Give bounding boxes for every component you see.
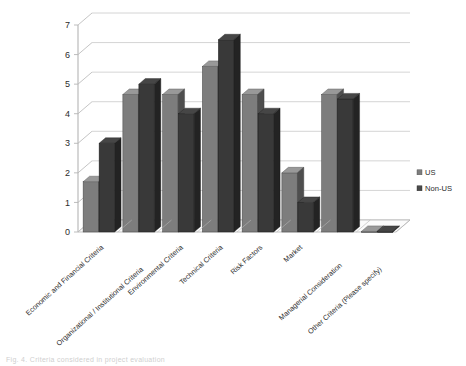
gridline-connector bbox=[78, 102, 92, 114]
bar-front bbox=[179, 114, 195, 232]
bar-front bbox=[163, 94, 179, 232]
bar-group bbox=[361, 226, 399, 233]
x-axis-label: Other Criteria (Please specify) bbox=[306, 265, 384, 336]
bar-group bbox=[322, 89, 360, 232]
bar-front bbox=[123, 94, 139, 232]
y-tick-label: 3 bbox=[65, 138, 70, 148]
bar-front bbox=[202, 66, 218, 232]
bar-group bbox=[83, 138, 121, 232]
bar-front bbox=[242, 94, 258, 232]
figure-caption: Fig. 4. Criteria considered in project e… bbox=[6, 356, 165, 363]
bar-chart: 01234567Economic and Financial CriteriaO… bbox=[0, 0, 466, 366]
gridline-connector bbox=[78, 161, 92, 173]
bar-side bbox=[313, 197, 319, 232]
bar-front bbox=[258, 114, 274, 232]
bar-front bbox=[218, 40, 234, 232]
bar-side bbox=[234, 34, 240, 232]
y-tick-label: 6 bbox=[65, 50, 70, 60]
chart-container: 01234567Economic and Financial CriteriaO… bbox=[0, 0, 466, 366]
y-axis-ticks: 01234567 bbox=[65, 20, 78, 237]
bar-front bbox=[99, 143, 115, 232]
bar-group bbox=[202, 34, 240, 232]
x-axis-label: Risk Factors bbox=[229, 243, 265, 277]
legend: USNon-US bbox=[417, 168, 452, 193]
y-tick-label: 5 bbox=[65, 79, 70, 89]
bar-side bbox=[154, 79, 160, 232]
bar-front bbox=[83, 182, 99, 232]
x-axis-label: Market bbox=[282, 243, 304, 264]
gridline-connector bbox=[78, 13, 92, 25]
y-tick-label: 4 bbox=[65, 109, 70, 119]
gridline-connector bbox=[78, 131, 92, 143]
plot-area: 01234567 bbox=[65, 13, 410, 237]
legend-label: Non-US bbox=[425, 184, 452, 193]
legend-label: US bbox=[425, 168, 436, 177]
bar-front bbox=[139, 84, 155, 232]
legend-swatch bbox=[417, 170, 422, 175]
y-tick-label: 7 bbox=[65, 20, 70, 30]
bar-side bbox=[115, 138, 121, 232]
bar-front bbox=[298, 202, 314, 232]
bar-group bbox=[123, 79, 161, 232]
y-tick-label: 1 bbox=[65, 198, 70, 208]
y-tick-label: 0 bbox=[65, 227, 70, 237]
legend-swatch bbox=[417, 186, 422, 191]
bar-group bbox=[242, 89, 280, 232]
bar-front bbox=[282, 173, 298, 232]
bar-front bbox=[338, 99, 354, 232]
bar-group bbox=[163, 89, 201, 232]
gridline-connector bbox=[78, 43, 92, 55]
y-tick-label: 2 bbox=[65, 168, 70, 178]
bar-side bbox=[194, 108, 200, 232]
bar-side bbox=[274, 108, 280, 232]
bar-front bbox=[322, 94, 338, 232]
x-axis-labels: Economic and Financial CriteriaOrganizat… bbox=[24, 243, 384, 348]
bar-side bbox=[353, 93, 359, 232]
gridline-connector bbox=[78, 72, 92, 84]
